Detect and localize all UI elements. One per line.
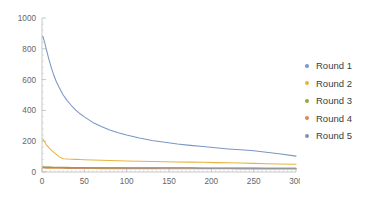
legend-item-label: Round 4 — [316, 114, 352, 124]
series-line-round-1 — [43, 36, 296, 156]
x-tick-label: 200 — [204, 177, 218, 186]
x-tick-label: 0 — [40, 177, 45, 186]
legend-item-label: Round 1 — [316, 61, 352, 71]
x-tick-label: 150 — [162, 177, 176, 186]
x-tick-label: 300 — [289, 177, 300, 186]
chart-figure: 05010015020025030002004006008001000 Roun… — [0, 0, 370, 200]
legend-marker-icon — [305, 64, 309, 68]
y-tick-label: 1000 — [18, 14, 37, 23]
chart-legend: Round 1Round 2Round 3Round 4Round 5 — [305, 57, 370, 145]
legend-marker-icon — [305, 81, 309, 85]
x-tick-label: 100 — [120, 177, 134, 186]
legend-item[interactable]: Round 1 — [305, 57, 370, 75]
legend-item[interactable]: Round 5 — [305, 127, 370, 145]
y-tick-label: 0 — [31, 168, 36, 177]
plot-svg: 05010015020025030002004006008001000 — [0, 0, 300, 200]
x-tick-label: 50 — [80, 177, 90, 186]
y-tick-label: 200 — [22, 137, 36, 146]
legend-item[interactable]: Round 2 — [305, 75, 370, 93]
legend-item[interactable]: Round 3 — [305, 92, 370, 110]
y-tick-label: 800 — [22, 45, 36, 54]
y-tick-label: 400 — [22, 106, 36, 115]
x-tick-label: 250 — [247, 177, 261, 186]
legend-item-label: Round 5 — [316, 131, 352, 141]
legend-marker-icon — [305, 134, 309, 138]
legend-marker-icon — [305, 99, 309, 103]
legend-item[interactable]: Round 4 — [305, 110, 370, 128]
legend-marker-icon — [305, 116, 309, 120]
plot-area: 05010015020025030002004006008001000 — [0, 0, 300, 200]
legend-item-label: Round 2 — [316, 79, 352, 89]
legend-item-label: Round 3 — [316, 96, 352, 106]
y-tick-label: 600 — [22, 76, 36, 85]
